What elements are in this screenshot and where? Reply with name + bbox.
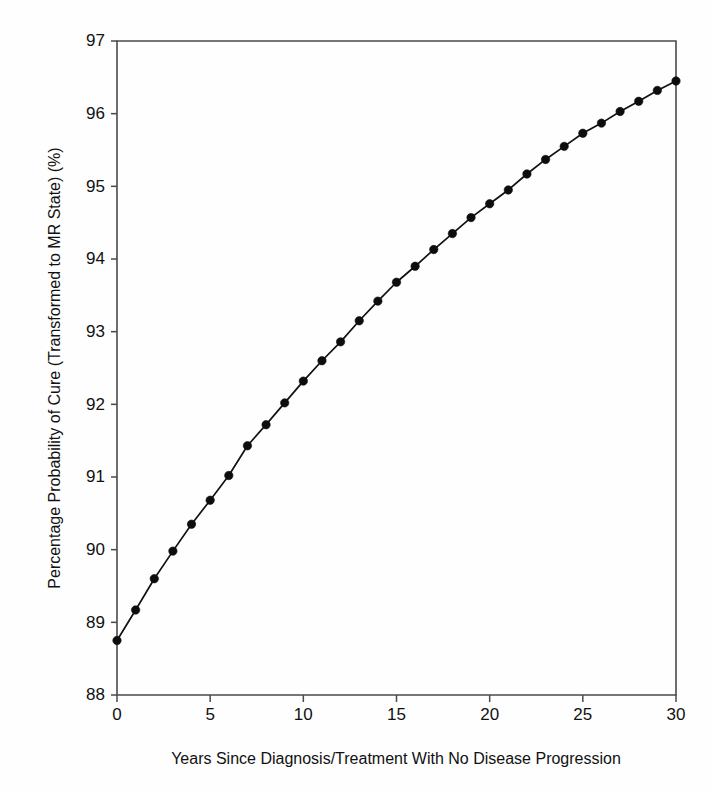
y-tick-label: 94 [86,249,105,268]
data-point-marker [318,357,326,365]
y-tick-label: 93 [86,322,105,341]
x-tick-label: 20 [480,705,499,724]
x-tick-label: 15 [387,705,406,724]
y-axis-ticks: 88899091929394959697 [86,31,117,704]
data-point-marker [187,520,195,528]
data-point-marker [597,119,605,127]
y-tick-label: 90 [86,540,105,559]
series-group [113,77,680,645]
y-tick-label: 92 [86,395,105,414]
y-tick-label: 96 [86,104,105,123]
x-axis-title: Years Since Diagnosis/Treatment With No … [171,750,621,767]
data-point-marker [467,213,475,221]
y-tick-label: 91 [86,467,105,486]
data-point-marker [169,547,177,555]
data-point-marker [206,496,214,504]
data-point-marker [392,278,400,286]
x-tick-label: 10 [294,705,313,724]
data-point-marker [355,317,363,325]
y-tick-label: 95 [86,177,105,196]
data-point-marker [616,107,624,115]
data-point-marker [336,338,344,346]
data-point-marker [262,420,270,428]
data-point-marker [243,442,251,450]
chart-figure: 88899091929394959697 051015202530 Years … [0,0,712,794]
data-point-marker [411,262,419,270]
data-point-marker [299,377,307,385]
data-point-marker [448,229,456,237]
chart-canvas: 88899091929394959697 051015202530 Years … [0,0,712,794]
x-tick-label: 0 [112,705,121,724]
data-point-marker [485,200,493,208]
data-point-marker [430,245,438,253]
data-point-marker [523,170,531,178]
y-tick-label: 89 [86,613,105,632]
series-markers [113,77,680,645]
data-point-marker [113,636,121,644]
series-line-probability-of-cure [117,81,676,641]
data-point-marker [579,129,587,137]
plot-frame-group [117,41,676,695]
data-point-marker [131,606,139,614]
x-tick-label: 30 [667,705,686,724]
data-point-marker [541,155,549,163]
y-axis-title: Percentage Probability of Cure (Transfor… [46,147,63,588]
data-point-marker [225,471,233,479]
data-point-marker [281,399,289,407]
data-point-marker [150,575,158,583]
data-point-marker [635,97,643,105]
x-tick-label: 5 [205,705,214,724]
y-tick-label: 97 [86,31,105,50]
data-point-marker [560,142,568,150]
data-point-marker [672,77,680,85]
x-tick-label: 25 [573,705,592,724]
x-axis-ticks: 051015202530 [112,695,685,724]
data-point-marker [653,86,661,94]
plot-frame [117,41,676,695]
data-point-marker [374,297,382,305]
y-tick-label: 88 [86,685,105,704]
data-point-marker [504,186,512,194]
